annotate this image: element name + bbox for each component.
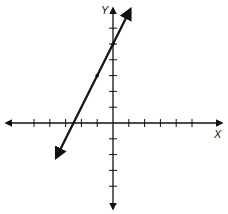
y-axis-label: Y [101, 4, 109, 16]
plotted-line [56, 9, 130, 158]
coordinate-plane: X Y [0, 0, 228, 214]
x-axis-label: X [213, 128, 222, 140]
x-axis [6, 119, 222, 127]
